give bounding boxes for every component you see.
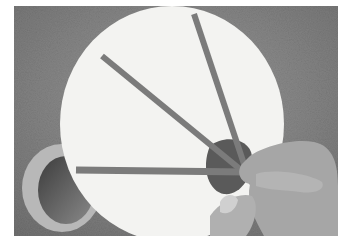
photo-scene bbox=[14, 6, 338, 236]
photograph bbox=[14, 6, 338, 236]
